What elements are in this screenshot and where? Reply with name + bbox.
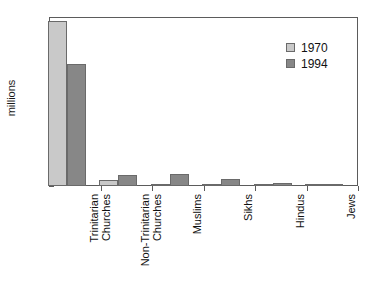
bar-1970-2: [151, 184, 170, 186]
legend-swatch-1970: [286, 43, 295, 52]
legend-item: 1970: [286, 41, 328, 54]
x-tick-mark: [204, 186, 205, 191]
legend-item: 1994: [286, 57, 328, 70]
bar-chart: millions 0123456789 Trinitarian Churches…: [0, 0, 372, 290]
x-category-label: Sikhs: [243, 194, 255, 290]
bar-1970-4: [254, 184, 273, 186]
bar-1994-1: [118, 175, 137, 186]
bar-1994-4: [273, 183, 292, 186]
bar-1994-0: [67, 64, 86, 186]
bar-1994-5: [324, 184, 343, 186]
bar-1970-5: [305, 184, 324, 186]
bar-1994-3: [221, 179, 240, 187]
x-category-label: Muslims: [192, 194, 204, 290]
x-tick-mark: [255, 186, 256, 191]
x-category-label: Trinitarian Churches: [89, 194, 112, 290]
x-category-label: Hindus: [295, 194, 307, 290]
bar-1970-3: [202, 184, 221, 186]
bar-1970-0: [48, 21, 67, 186]
legend-label-1970: 1970: [301, 42, 328, 54]
legend-swatch-1994: [286, 59, 295, 68]
x-tick-mark: [358, 186, 359, 191]
x-category-label: Jews: [346, 194, 358, 290]
x-tick-mark: [152, 186, 153, 191]
x-category-label: Non-Trinitarian Churches: [140, 194, 163, 290]
legend: 1970 1994: [286, 41, 328, 73]
x-tick-mark: [307, 186, 308, 191]
x-tick-mark: [101, 186, 102, 191]
bar-1970-1: [99, 180, 118, 186]
legend-label-1994: 1994: [301, 58, 328, 70]
bar-1994-2: [170, 174, 189, 186]
